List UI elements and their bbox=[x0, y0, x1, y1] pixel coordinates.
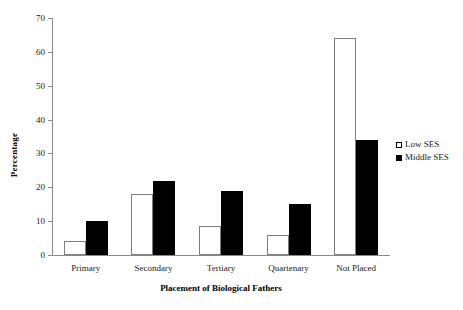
bar-groups: PrimarySecondaryTertiaryQuartenaryNot Pl… bbox=[52, 18, 390, 255]
x-axis-tick-label: Secondary bbox=[134, 263, 172, 273]
y-axis-tick bbox=[48, 255, 52, 256]
y-axis-tick-label: 10 bbox=[36, 217, 45, 226]
y-axis-tick-label: 40 bbox=[36, 115, 45, 124]
bar-low-ses bbox=[199, 226, 221, 255]
bar-middle-ses bbox=[289, 204, 311, 255]
filled-square-icon bbox=[396, 155, 402, 161]
bar-group: Primary bbox=[52, 18, 120, 255]
bar-chart-figure: Percentage 010203040506070 PrimarySecond… bbox=[0, 0, 463, 310]
y-axis-tick-label: 30 bbox=[36, 149, 45, 158]
hollow-square-icon bbox=[396, 142, 402, 148]
y-axis-tick-label: 50 bbox=[36, 81, 45, 90]
x-axis-title: Placement of Biological Fathers bbox=[52, 283, 390, 293]
bar-group: Tertiary bbox=[187, 18, 255, 255]
legend-item-label: Middle SES bbox=[405, 151, 449, 164]
plot-area: 010203040506070 PrimarySecondaryTertiary… bbox=[52, 18, 390, 255]
x-axis-tick-label: Quartenary bbox=[268, 263, 308, 273]
bar-middle-ses bbox=[86, 221, 108, 255]
x-axis-tick-label: Primary bbox=[71, 263, 100, 273]
bar-middle-ses bbox=[356, 140, 378, 255]
y-axis-tick-label: 0 bbox=[41, 251, 46, 260]
y-axis-tick-label: 70 bbox=[36, 14, 45, 23]
y-axis-title: Percentage bbox=[9, 133, 19, 177]
bar-group: Quartenary bbox=[255, 18, 323, 255]
x-axis-line bbox=[52, 255, 390, 256]
bar-group: Secondary bbox=[120, 18, 188, 255]
x-axis-tick-label: Tertiary bbox=[207, 263, 235, 273]
bar-group: Not Placed bbox=[322, 18, 390, 255]
chart-legend: Low SESMiddle SES bbox=[396, 138, 449, 164]
legend-item: Low SES bbox=[396, 138, 449, 151]
bar-low-ses bbox=[131, 194, 153, 255]
bar-low-ses bbox=[64, 241, 86, 255]
y-axis-tick-label: 20 bbox=[36, 183, 45, 192]
bar-low-ses bbox=[267, 235, 289, 255]
bar-middle-ses bbox=[221, 191, 243, 255]
bar-low-ses bbox=[334, 38, 356, 255]
y-axis-tick-label: 60 bbox=[36, 47, 45, 56]
x-axis-tick-label: Not Placed bbox=[336, 263, 376, 273]
bar-middle-ses bbox=[153, 181, 175, 255]
legend-item: Middle SES bbox=[396, 151, 449, 164]
legend-item-label: Low SES bbox=[405, 138, 439, 151]
